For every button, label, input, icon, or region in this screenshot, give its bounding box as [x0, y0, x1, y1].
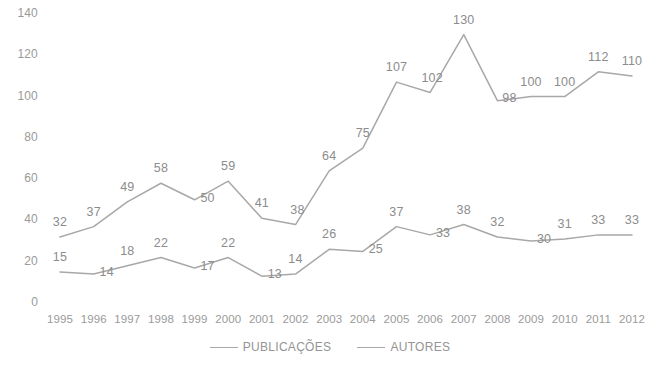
data-label-publicacoes-2006: 102	[415, 71, 449, 85]
legend-line-swatch-publicacoes	[210, 347, 238, 348]
data-label-publicacoes-1997: 49	[110, 180, 144, 194]
data-label-publicacoes-2002: 38	[281, 203, 315, 217]
data-label-autores-2003: 26	[312, 227, 346, 241]
data-label-autores-1998: 22	[144, 236, 178, 250]
data-label-publicacoes-2009: 100	[514, 75, 548, 89]
data-label-autores-2011: 33	[581, 213, 615, 227]
data-label-publicacoes-2003: 64	[312, 149, 346, 163]
x-axis-tick-2001: 2001	[245, 313, 279, 325]
y-axis-tick-40: 40	[4, 212, 38, 226]
data-label-autores-2005: 37	[379, 205, 413, 219]
x-axis-tick-2006: 2006	[413, 313, 447, 325]
x-axis-tick-1998: 1998	[144, 313, 178, 325]
data-label-publicacoes-2008: 98	[492, 91, 526, 105]
data-label-autores-1999: 17	[191, 259, 225, 273]
data-label-publicacoes-2011: 112	[581, 50, 615, 64]
legend-item-publicacoes[interactable]: PUBLICAÇÕES	[210, 340, 332, 354]
data-label-publicacoes-1998: 58	[144, 161, 178, 175]
data-label-autores-2007: 38	[447, 203, 481, 217]
data-label-autores-2012: 33	[615, 213, 649, 227]
x-axis-tick-2010: 2010	[548, 313, 582, 325]
line-chart: 020406080100120140 199519961997199819992…	[0, 0, 660, 365]
x-axis-tick-1996: 1996	[77, 313, 111, 325]
data-label-publicacoes-2005: 107	[379, 60, 413, 74]
y-axis-tick-140: 140	[4, 6, 38, 20]
data-label-publicacoes-1995: 32	[43, 215, 77, 229]
x-axis-tick-1999: 1999	[178, 313, 212, 325]
y-axis-tick-0: 0	[4, 295, 38, 309]
data-label-publicacoes-2004: 75	[346, 126, 380, 140]
data-label-publicacoes-2001: 41	[245, 196, 279, 210]
data-label-autores-1997: 18	[110, 244, 144, 258]
legend-item-autores[interactable]: AUTORES	[357, 340, 450, 354]
legend-line-swatch-autores	[357, 347, 385, 348]
x-axis-tick-2008: 2008	[480, 313, 514, 325]
data-label-publicacoes-2000: 59	[211, 159, 245, 173]
x-axis-tick-2011: 2011	[581, 313, 615, 325]
data-label-publicacoes-1996: 37	[77, 205, 111, 219]
y-axis-tick-80: 80	[4, 130, 38, 144]
data-label-autores-2004: 25	[359, 242, 393, 256]
x-axis-tick-2003: 2003	[312, 313, 346, 325]
data-label-autores-1995: 15	[43, 250, 77, 264]
y-axis-tick-60: 60	[4, 171, 38, 185]
x-axis-tick-2012: 2012	[615, 313, 649, 325]
data-label-autores-2001: 13	[258, 267, 292, 281]
data-label-autores-2008: 32	[480, 215, 514, 229]
y-axis-tick-20: 20	[4, 254, 38, 268]
data-label-autores-2006: 33	[426, 226, 460, 240]
x-axis-tick-2000: 2000	[211, 313, 245, 325]
data-label-autores-2009: 30	[527, 232, 561, 246]
y-axis-tick-120: 120	[4, 47, 38, 61]
y-axis-tick-100: 100	[4, 89, 38, 103]
chart-plot-area	[0, 0, 660, 365]
x-axis-tick-2002: 2002	[279, 313, 313, 325]
x-axis-tick-2005: 2005	[379, 313, 413, 325]
x-axis-tick-2007: 2007	[447, 313, 481, 325]
x-axis-tick-2004: 2004	[346, 313, 380, 325]
legend-label-autores: AUTORES	[390, 340, 450, 354]
x-axis-tick-2009: 2009	[514, 313, 548, 325]
data-label-publicacoes-2010: 100	[548, 75, 582, 89]
data-label-autores-2002: 14	[279, 252, 313, 266]
data-label-publicacoes-1999: 50	[191, 191, 225, 205]
data-label-autores-1996: 14	[90, 265, 124, 279]
legend-label-publicacoes: PUBLICAÇÕES	[243, 340, 332, 354]
data-label-autores-2010: 31	[548, 217, 582, 231]
data-label-publicacoes-2007: 130	[447, 13, 481, 27]
x-axis-tick-1995: 1995	[43, 313, 77, 325]
chart-legend: PUBLICAÇÕES AUTORES	[0, 340, 660, 354]
data-label-autores-2000: 22	[211, 236, 245, 250]
data-label-publicacoes-2012: 110	[615, 54, 649, 68]
x-axis-tick-1997: 1997	[110, 313, 144, 325]
